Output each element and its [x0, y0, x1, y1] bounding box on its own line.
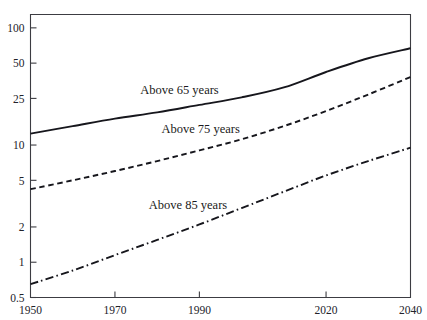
series-label-group: Above 65 yearsAbove 75 yearsAbove 85 yea… — [140, 83, 240, 212]
plot-frame — [31, 15, 411, 298]
x-axis-tick-label: 1990 — [188, 304, 211, 316]
y-axis-tick-group: 0.5125102550100 — [7, 22, 36, 304]
chart-page: 0.5125102550100 19501970199020202040 Abo… — [0, 0, 427, 320]
series-group — [31, 48, 411, 284]
y-axis-tick-label: 10 — [13, 139, 25, 151]
x-axis-tick-label: 2040 — [399, 304, 422, 316]
y-axis-tick-label: 5 — [19, 175, 25, 187]
series-inline-label: Above 85 years — [149, 198, 228, 212]
axis-frame — [31, 15, 411, 298]
y-axis-tick-label: 0.5 — [10, 292, 25, 304]
x-axis-tick-group: 19501970199020202040 — [19, 292, 422, 316]
y-axis-tick-label: 25 — [13, 93, 25, 105]
y-axis-tick-label: 2 — [19, 221, 25, 233]
y-axis-tick-label: 100 — [7, 22, 25, 34]
series-line-dashdot — [31, 148, 411, 285]
x-axis-tick-label: 1950 — [19, 304, 42, 316]
series-inline-label: Above 75 years — [161, 122, 240, 136]
population-age-log-line-chart: 0.5125102550100 19501970199020202040 Abo… — [0, 0, 427, 320]
series-inline-label: Above 65 years — [140, 83, 219, 97]
y-axis-tick-label: 1 — [19, 256, 25, 268]
x-axis-tick-label: 2020 — [315, 304, 338, 316]
series-line-solid — [31, 48, 411, 133]
x-axis-tick-label: 1970 — [103, 304, 126, 316]
y-axis-tick-label: 50 — [13, 57, 25, 69]
